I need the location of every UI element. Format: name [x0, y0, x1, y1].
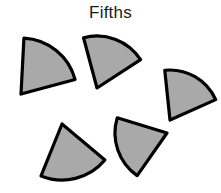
- sector-4: [41, 124, 105, 180]
- sector-5: [115, 118, 167, 176]
- sector-2: [84, 36, 141, 88]
- fraction-sectors-figure: [0, 0, 221, 193]
- worksheet-figure-page: Fifths: [0, 0, 221, 193]
- sector-1: [21, 38, 75, 94]
- sector-3: [165, 70, 216, 120]
- sectors-group: [21, 36, 216, 180]
